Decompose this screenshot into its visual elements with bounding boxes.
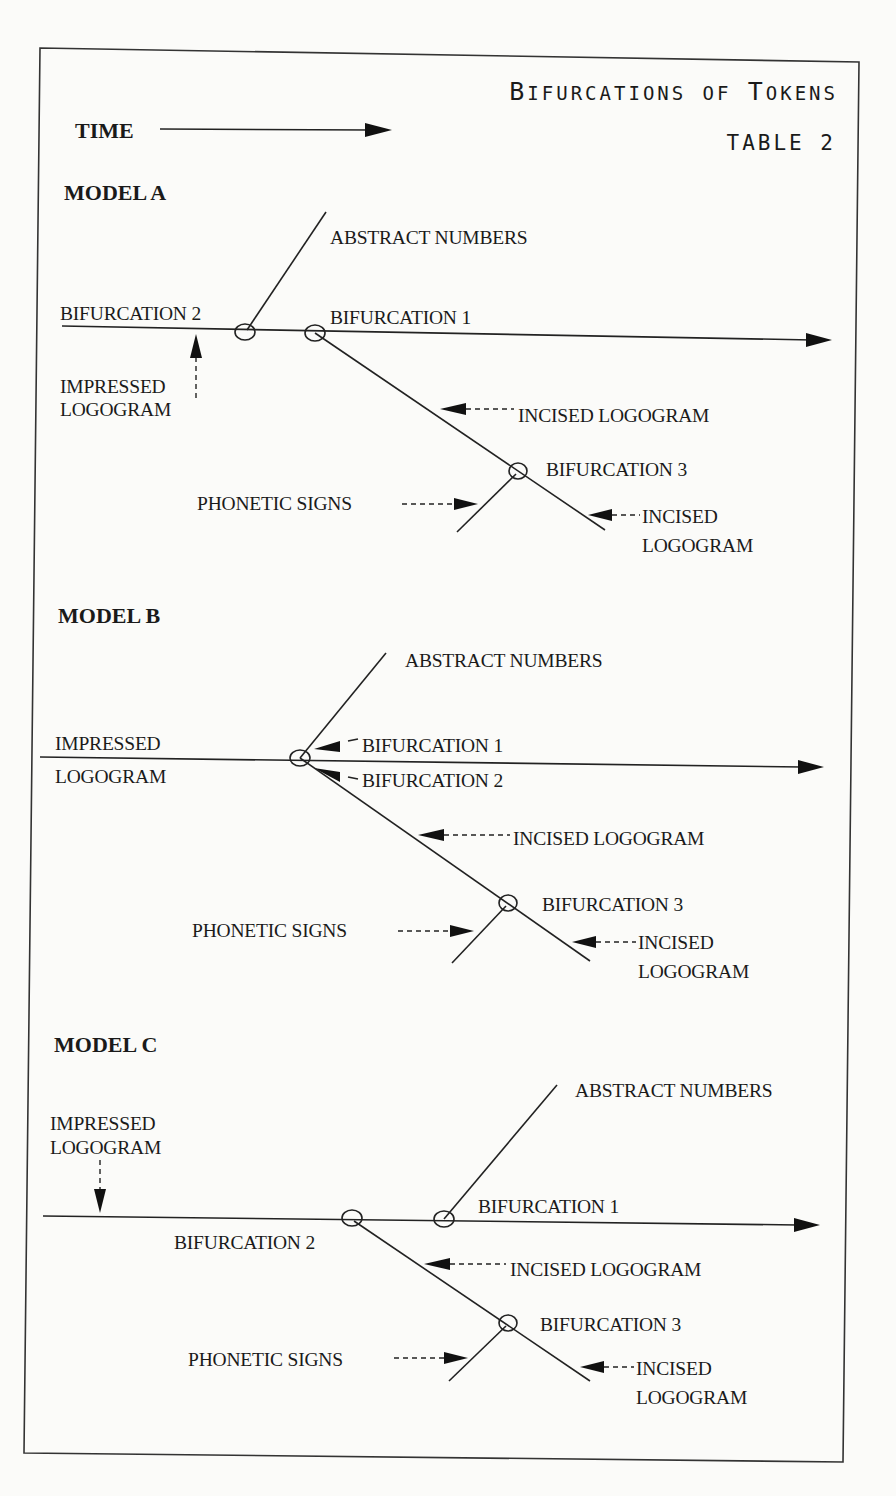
model-c-incised-arrow-icon [424, 1258, 450, 1270]
model-c-impressed-label-1: IMPRESSED [50, 1113, 156, 1134]
model-a-phonetic-arrow-icon [454, 498, 478, 510]
title: BIFURCATIONS OF TOKENS [509, 77, 838, 106]
model-a-incised-label: INCISED LOGOGRAM [518, 405, 709, 426]
model-b-bif2-label: BIFURCATION 2 [362, 770, 503, 791]
model-a-main-line [62, 326, 812, 340]
model-a-bif3-label: BIFURCATION 3 [546, 459, 687, 480]
model-a-incised2-label-2: LOGOGRAM [642, 535, 753, 556]
model-b-impressed-label-2: LOGOGRAM [55, 766, 166, 787]
model-b-bif3-label: BIFURCATION 3 [542, 894, 683, 915]
model-b-title: MODEL B [58, 603, 160, 628]
model-a-title: MODEL A [64, 180, 166, 205]
model-a-abstract-label: ABSTRACT NUMBERS [330, 227, 527, 248]
model-c-bif1-label: BIFURCATION 1 [478, 1196, 619, 1217]
model-b-impressed-label-1: IMPRESSED [55, 733, 161, 754]
model-b-phonetic-branch [452, 906, 506, 963]
time-arrow-line [160, 129, 372, 130]
model-a: MODEL A ABSTRACT NUMBERS BIFURCATION 2 B… [60, 180, 832, 556]
model-c-title: MODEL C [54, 1032, 157, 1057]
model-b-phonetic-label: PHONETIC SIGNS [192, 920, 347, 941]
model-a-bif2-label: BIFURCATION 2 [60, 303, 201, 324]
model-b-bif1-arrow-icon [314, 741, 340, 752]
model-b-phonetic-arrow-icon [450, 925, 474, 937]
model-c-incised2-arrow-icon [580, 1361, 604, 1373]
model-c-incised-label: INCISED LOGOGRAM [510, 1259, 701, 1280]
model-c-main-arrowhead-icon [794, 1218, 820, 1232]
model-c: MODEL C IMPRESSED LOGOGRAM ABSTRACT NUMB… [43, 1032, 820, 1408]
model-c-phonetic-arrow-icon [444, 1352, 468, 1364]
model-b-incised2-label-2: LOGOGRAM [638, 961, 749, 982]
model-c-bif3-label: BIFURCATION 3 [540, 1314, 681, 1335]
model-a-phonetic-label: PHONETIC SIGNS [197, 493, 352, 514]
model-a-impressed-label-2: LOGOGRAM [60, 399, 171, 420]
model-c-abstract-label: ABSTRACT NUMBERS [575, 1080, 772, 1101]
model-b-incised2-label-1: INCISED [638, 932, 714, 953]
model-b-bif2-pointer [348, 777, 358, 779]
model-c-incised2-label-2: LOGOGRAM [636, 1387, 747, 1408]
model-c-down-arrow-icon [94, 1189, 106, 1213]
model-a-bif2-node [235, 324, 255, 340]
model-b-incised2-arrow-icon [572, 936, 596, 948]
model-a-incised2-label-1: INCISED [642, 506, 718, 527]
model-b-main-arrowhead-icon [798, 760, 824, 774]
model-b-bif1-pointer [348, 739, 358, 741]
model-c-bif3-node [499, 1315, 517, 1331]
model-c-incised-branch [354, 1221, 590, 1381]
model-b-incised-arrow-icon [418, 829, 444, 841]
model-b-abstract-label: ABSTRACT NUMBERS [405, 650, 602, 671]
table-number: TABLE 2 [726, 131, 836, 155]
model-b-incised-label: INCISED LOGOGRAM [513, 828, 704, 849]
model-c-incised2-label-1: INCISED [636, 1358, 712, 1379]
model-c-main-line [43, 1216, 798, 1225]
model-c-phonetic-branch [449, 1326, 506, 1381]
model-c-impressed-label-2: LOGOGRAM [50, 1137, 161, 1158]
model-c-phonetic-label: PHONETIC SIGNS [188, 1349, 343, 1370]
model-a-abstract-branch [247, 212, 326, 330]
model-c-bif2-label: BIFURCATION 2 [174, 1232, 315, 1253]
time-label: TIME [75, 118, 134, 143]
model-a-impressed-label-1: IMPRESSED [60, 376, 166, 397]
model-b: MODEL B IMPRESSED LOGOGRAM ABSTRACT NUMB… [40, 603, 824, 982]
model-a-bif1-label: BIFURCATION 1 [330, 307, 471, 328]
model-a-main-arrowhead-icon [806, 333, 832, 347]
model-b-bif1-label: BIFURCATION 1 [362, 735, 503, 756]
time-arrow-icon [365, 123, 392, 137]
bifurcation-diagram: BIFURCATIONS OF TOKENS TABLE 2 TIME MODE… [0, 0, 896, 1496]
model-a-incised2-arrow-icon [588, 509, 612, 521]
model-a-incised-arrow-icon [440, 403, 466, 415]
model-a-up-arrow-icon [190, 334, 202, 358]
